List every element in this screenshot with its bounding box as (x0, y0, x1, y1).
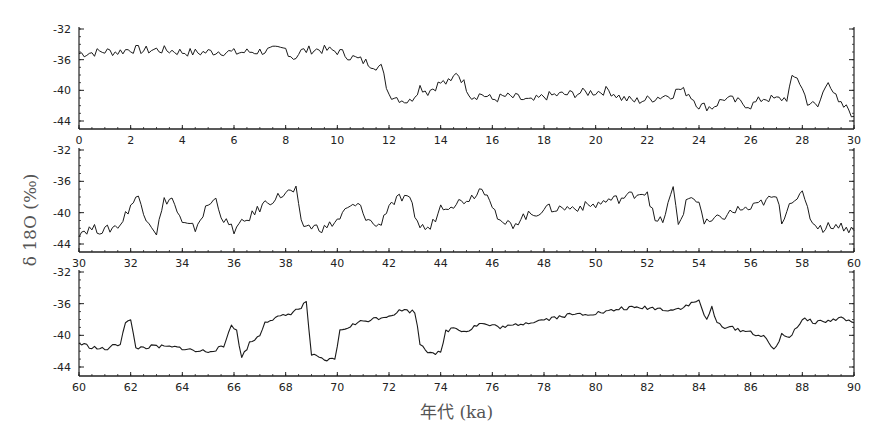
x-tick-label: 70 (330, 381, 344, 394)
x-tick-label: 12 (382, 134, 396, 147)
x-tick-label: 16 (485, 134, 499, 147)
x-axis-label: 年代 (ka) (420, 398, 493, 423)
y-tick-label: -40 (53, 207, 71, 220)
y-tick-label: -44 (53, 115, 71, 128)
y-tick-label: -32 (53, 23, 71, 36)
x-tick-label: 90 (847, 381, 861, 394)
x-tick-label: 62 (124, 381, 138, 394)
y-tick-label: -32 (53, 266, 71, 279)
x-tick-label: 4 (179, 134, 186, 147)
x-tick-label: 44 (434, 257, 448, 270)
x-tick-label: 58 (795, 257, 809, 270)
x-tick-label: 40 (330, 257, 344, 270)
x-tick-label: 68 (279, 381, 293, 394)
x-tick-label: 78 (537, 381, 551, 394)
x-tick-label: 10 (330, 134, 344, 147)
x-tick-label: 74 (434, 381, 448, 394)
y-tick-label: -40 (53, 329, 71, 342)
y-tick-label: -36 (53, 54, 71, 67)
y-tick-label: -40 (53, 84, 71, 97)
panel-1: 024681012141618202224262830-32-36-40-44 (53, 23, 861, 147)
x-tick-label: 88 (795, 381, 809, 394)
panel-3: 60626466687072747678808284868890-32-36-4… (53, 266, 861, 394)
x-tick-label: 22 (640, 134, 654, 147)
x-tick-label: 2 (127, 134, 134, 147)
d18o-series (79, 45, 854, 117)
x-tick-label: 14 (434, 134, 448, 147)
x-tick-label: 46 (485, 257, 499, 270)
x-tick-label: 36 (227, 257, 241, 270)
x-tick-label: 82 (640, 381, 654, 394)
x-tick-label: 60 (72, 381, 86, 394)
d18o-series (79, 186, 854, 237)
x-tick-label: 80 (589, 381, 603, 394)
y-tick-label: -44 (53, 238, 71, 251)
x-tick-label: 56 (744, 257, 758, 270)
x-tick-label: 64 (175, 381, 189, 394)
x-tick-label: 26 (744, 134, 758, 147)
x-tick-label: 76 (485, 381, 499, 394)
x-tick-label: 66 (227, 381, 241, 394)
x-tick-label: 8 (282, 134, 289, 147)
x-tick-label: 84 (692, 381, 706, 394)
x-tick-label: 24 (692, 134, 706, 147)
x-tick-label: 28 (795, 134, 809, 147)
x-tick-label: 54 (692, 257, 706, 270)
y-tick-label: -36 (53, 175, 71, 188)
ice-core-chart: 024681012141618202224262830-32-36-40-443… (0, 0, 876, 438)
y-tick-label: -32 (53, 144, 71, 157)
x-tick-label: 30 (847, 134, 861, 147)
x-tick-label: 86 (744, 381, 758, 394)
x-tick-label: 38 (279, 257, 293, 270)
x-tick-label: 48 (537, 257, 551, 270)
x-tick-label: 6 (231, 134, 238, 147)
x-tick-label: 60 (847, 257, 861, 270)
x-tick-label: 32 (124, 257, 138, 270)
x-tick-label: 18 (537, 134, 551, 147)
d18o-series (79, 300, 854, 361)
x-tick-label: 52 (640, 257, 654, 270)
y-tick-label: -36 (53, 298, 71, 311)
x-tick-label: 20 (589, 134, 603, 147)
x-tick-label: 50 (589, 257, 603, 270)
x-tick-label: 72 (382, 381, 396, 394)
x-tick-label: 34 (175, 257, 189, 270)
x-tick-label: 42 (382, 257, 396, 270)
y-axis-label: δ 18O (‰) (10, 155, 50, 285)
x-tick-label: 0 (76, 134, 83, 147)
panel-2: 30323436384042444648505254565860-32-36-4… (53, 144, 861, 270)
x-tick-label: 30 (72, 257, 86, 270)
y-tick-label: -44 (53, 361, 71, 374)
